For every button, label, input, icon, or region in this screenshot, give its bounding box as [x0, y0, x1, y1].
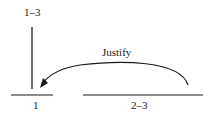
top-label: 1–3: [24, 6, 41, 18]
justify-arrow-curve: [42, 62, 188, 85]
justify-label: Justify: [102, 46, 131, 58]
right-base-label: 2–3: [131, 99, 148, 111]
left-base-label: 1: [33, 99, 39, 111]
